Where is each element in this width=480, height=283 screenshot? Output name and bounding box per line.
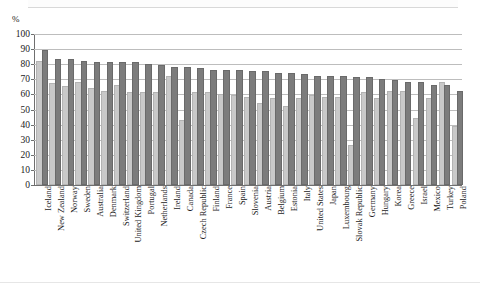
x-tick-label: Ireland [174,186,182,210]
bar-group [322,34,332,185]
x-tick-label: Mexico [434,186,442,212]
bar [431,85,438,185]
x-tick-label: Sweden [84,186,92,213]
y-tick-label: 90 [2,45,30,55]
bar-group [348,34,358,185]
bar-group [439,34,449,185]
x-tick-label: France [226,186,234,209]
y-tick-label: 60 [2,90,30,100]
bar-group [296,34,306,185]
bar [327,76,334,185]
x-tick-label: Poland [460,186,468,209]
bar-group [257,34,267,185]
bar-group [413,34,423,185]
bar [418,82,425,185]
bar-group [387,34,397,185]
y-tick-label: 100 [2,30,30,40]
bar-group [49,34,59,185]
bar [184,67,191,185]
bar [275,73,282,185]
bar [405,82,412,185]
y-tick-label: 0 [2,181,30,191]
bar-group [179,34,189,185]
bar-group [452,34,462,185]
bar [119,62,126,185]
bar [55,59,62,185]
bar-group [127,34,137,185]
bar [288,73,295,185]
y-tick-label: 30 [2,136,30,146]
plot-area [34,34,462,185]
bar-group [140,34,150,185]
x-tick-label: Israel [421,186,429,205]
x-tick-label: Denmark [110,186,118,217]
bar [301,74,308,185]
x-tick-label: Canada [187,186,195,211]
x-tick-label: Netherlands [161,186,169,226]
bar [262,71,269,185]
bar-group [192,34,202,185]
y-tick-label: 70 [2,75,30,85]
bar [249,71,256,185]
bar-group [101,34,111,185]
bar [171,67,178,185]
x-tick-label: Portugal [148,186,156,214]
bar [366,77,373,185]
bar [68,59,75,185]
bar-group [309,34,319,185]
x-tick-label: Belgium [278,186,286,215]
bar-group [218,34,228,185]
bar-group [335,34,345,185]
bar-group [36,34,46,185]
x-tick-label: Turkey [447,186,455,210]
bar-group [75,34,85,185]
x-tick-label: United Kingdom [135,186,143,243]
bar-group [88,34,98,185]
bar [197,68,204,185]
bar [223,70,230,185]
x-tick-label: Greece [408,186,416,210]
y-tick-label: 40 [2,121,30,131]
bar [42,50,49,185]
x-tick-label: Italy [304,186,312,201]
bar-group [62,34,72,185]
y-tick-label: 80 [2,60,30,70]
bar-group [283,34,293,185]
x-tick-label: Australia [97,186,105,217]
bar-group [361,34,371,185]
bar-group [153,34,163,185]
x-tick-label: Switzerland [123,186,131,226]
bar [314,76,321,185]
bar [210,70,217,185]
bar-group [426,34,436,185]
bar [158,65,165,185]
bar-group [244,34,254,185]
bar-group [231,34,241,185]
y-tick-label: 50 [2,106,30,116]
bar-group [114,34,124,185]
bar [236,70,243,185]
bar [340,76,347,185]
bar-group [205,34,215,185]
y-tick-label: 10 [2,166,30,176]
bar [457,91,464,185]
x-tick-label: Slovak Republic [356,186,364,242]
x-tick-label: Japan [330,186,338,205]
bar-chart: % 0102030405060708090100 IcelandNew Zeal… [0,0,480,283]
bar [392,80,399,185]
x-tick-label: Slovenia [252,186,260,215]
x-tick-label: Luxembourg [343,186,351,229]
bar [145,64,152,185]
x-tick-label: Germany [369,186,377,217]
x-tick-label: Norway [71,186,79,213]
bar [107,62,114,185]
x-tick-label: Austria [265,186,273,211]
x-tick-label: Spain [239,186,247,205]
x-tick-label: United States [317,186,325,231]
x-tick-label: Iceland [45,186,53,211]
bar-group [400,34,410,185]
bar-group [270,34,280,185]
x-axis-labels: IcelandNew ZealandNorwaySwedenAustraliaD… [34,186,462,283]
x-tick-label: Czech Republic [200,186,208,239]
x-tick-label: New Zealand [58,186,66,231]
